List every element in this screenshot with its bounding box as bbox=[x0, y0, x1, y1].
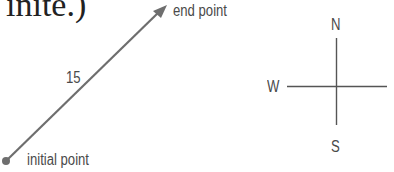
compass-south-label: S bbox=[331, 139, 340, 155]
vector-arrow bbox=[2, 5, 167, 165]
compass-cross bbox=[287, 38, 387, 125]
initial-point-dot bbox=[2, 157, 10, 165]
vector-diagram: inite.) 15 end point initial point N S W bbox=[0, 0, 394, 172]
initial-point-label: initial point bbox=[27, 152, 89, 168]
end-point-label: end point bbox=[173, 3, 227, 19]
compass-north-label: N bbox=[331, 17, 340, 33]
magnitude-label: 15 bbox=[66, 70, 81, 86]
compass-west-label: W bbox=[267, 79, 279, 95]
